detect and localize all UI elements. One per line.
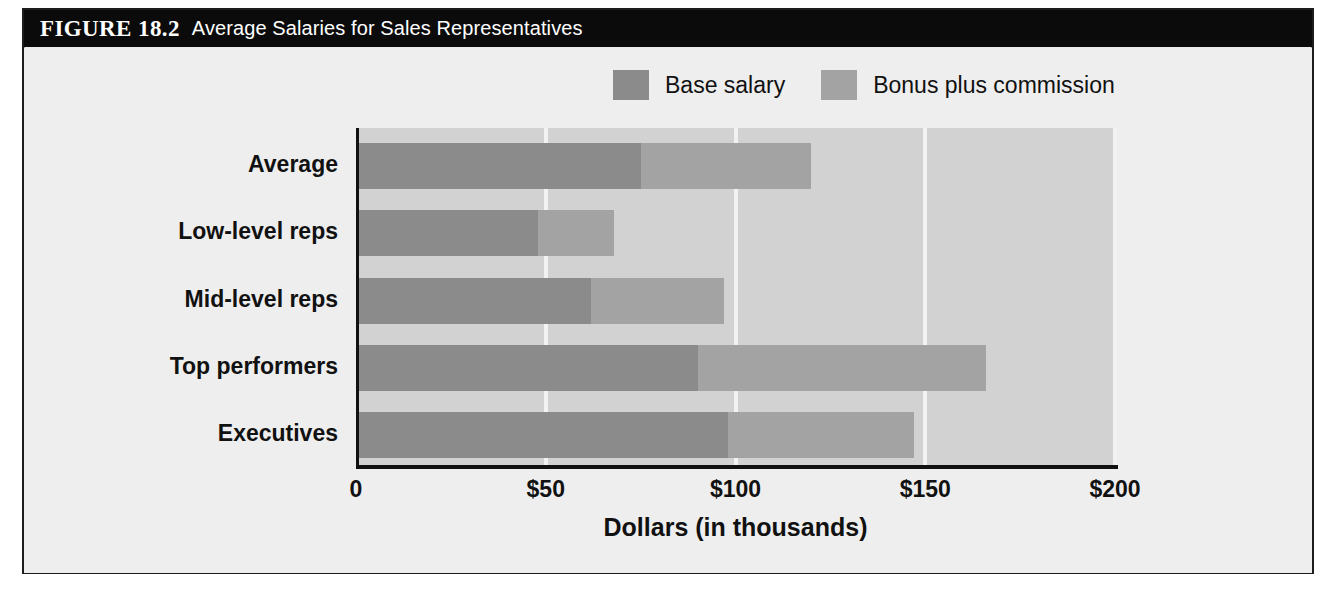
bar-segment-bonus-commission bbox=[728, 412, 914, 458]
figure-title-bar: FIGURE 18.2 Average Salaries for Sales R… bbox=[24, 10, 1312, 47]
bar-segment-bonus-commission bbox=[641, 143, 812, 189]
category-label-mid-level-reps: Mid-level reps bbox=[98, 286, 338, 313]
bar-executives bbox=[356, 412, 914, 458]
bar-average bbox=[356, 143, 811, 189]
gridline-150 bbox=[923, 128, 927, 465]
category-label-top-performers: Top performers bbox=[98, 353, 338, 380]
y-axis-line bbox=[356, 128, 359, 468]
bar-segment-bonus-commission bbox=[698, 345, 986, 391]
x-tick-label-50: $50 bbox=[527, 476, 565, 503]
figure-number: FIGURE 18.2 bbox=[40, 16, 180, 42]
bar-segment-bonus-commission bbox=[591, 278, 724, 324]
x-tick-label-150: $150 bbox=[900, 476, 951, 503]
gridline-200 bbox=[1113, 128, 1117, 465]
figure-container: FIGURE 18.2 Average Salaries for Sales R… bbox=[0, 0, 1338, 595]
legend-label-bonus-commission: Bonus plus commission bbox=[873, 72, 1115, 99]
bar-segment-base-salary bbox=[356, 412, 728, 458]
x-axis-line bbox=[356, 465, 1118, 469]
bar-segment-base-salary bbox=[356, 345, 698, 391]
legend-swatch-bonus-commission bbox=[821, 70, 857, 100]
bar-segment-base-salary bbox=[356, 143, 641, 189]
x-tick-label-0: 0 bbox=[350, 476, 363, 503]
chart-legend: Base salary Bonus plus commission bbox=[613, 70, 1115, 100]
x-tick-label-100: $100 bbox=[710, 476, 761, 503]
bar-top-performers bbox=[356, 345, 986, 391]
x-tick-label-200: $200 bbox=[1089, 476, 1140, 503]
bar-low-level-reps bbox=[356, 210, 614, 256]
bar-segment-base-salary bbox=[356, 278, 591, 324]
legend-swatch-base-salary bbox=[613, 70, 649, 100]
legend-label-base-salary: Base salary bbox=[665, 72, 785, 99]
legend-item-bonus-commission: Bonus plus commission bbox=[821, 70, 1115, 100]
bar-segment-bonus-commission bbox=[538, 210, 614, 256]
figure-title: Average Salaries for Sales Representativ… bbox=[192, 17, 583, 40]
category-label-average: Average bbox=[98, 151, 338, 178]
bar-segment-base-salary bbox=[356, 210, 538, 256]
category-label-executives: Executives bbox=[98, 420, 338, 447]
category-label-low-level-reps: Low-level reps bbox=[98, 218, 338, 245]
legend-item-base-salary: Base salary bbox=[613, 70, 785, 100]
x-axis-title: Dollars (in thousands) bbox=[356, 513, 1115, 542]
bar-mid-level-reps bbox=[356, 278, 724, 324]
